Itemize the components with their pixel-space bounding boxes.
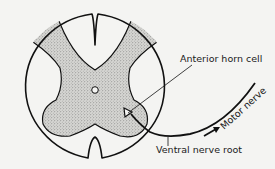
diagram-canvas: Anterior horn cell Ventral nerve root Mo…: [0, 0, 275, 169]
spinal-cord-diagram: Anterior horn cell Ventral nerve root Mo…: [0, 0, 275, 169]
label-anterior-horn-cell: Anterior horn cell: [180, 53, 262, 64]
gray-matter: [33, 10, 157, 137]
central-canal: [92, 87, 99, 94]
anterior-horn-cell-leader: [128, 65, 192, 113]
label-motor-nerve: Motor nerve: [218, 85, 268, 132]
label-ventral-nerve-root: Ventral nerve root: [156, 144, 242, 155]
